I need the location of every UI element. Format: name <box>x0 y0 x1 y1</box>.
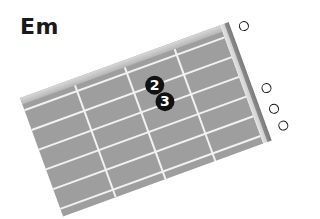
open-string-icon <box>237 20 250 33</box>
open-string-icon <box>260 82 273 95</box>
finger-marker: 3 <box>155 92 174 111</box>
chord-name: Em <box>20 14 59 39</box>
open-string-icon <box>268 102 281 115</box>
chord-diagram: 2 3 <box>20 22 272 216</box>
open-string-icon <box>277 119 290 132</box>
